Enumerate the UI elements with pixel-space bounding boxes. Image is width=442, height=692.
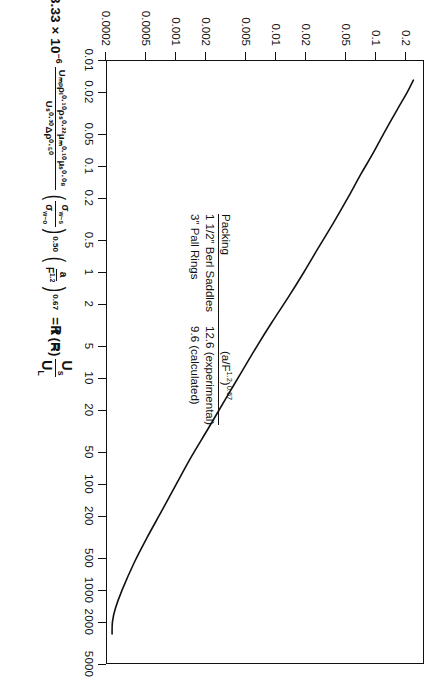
sigma-ratio-exponent: 0.50 <box>51 236 60 252</box>
legend-header-value: (a/F1.2)0.67 <box>219 326 234 425</box>
y-tick-mark <box>175 52 176 60</box>
x-tick-label: 500 <box>83 548 95 568</box>
y-tick-label: 0.1 <box>370 30 382 46</box>
sigma-ratio-numerator: σw−s <box>55 201 70 227</box>
y-axis-title-aF-group: ( a F1.2 ) 0.67 <box>43 255 68 310</box>
y-tick-mark <box>145 52 146 60</box>
legend-table: Packing (a/F1.2)0.67 1 1/2″ Berl Saddles… <box>189 214 234 425</box>
x-tick-label: 10 <box>83 371 95 384</box>
y-axis-title-main-denominator: Uₛ⁰·³⁰Δρ⁰·⁵⁰ <box>44 98 55 159</box>
x-tick-label: 2 <box>83 301 95 308</box>
legend-block: Packing (a/F1.2)0.67 1 1/2″ Berl Saddles… <box>189 214 234 425</box>
x-tick-mark <box>98 410 106 411</box>
legend-header-packing: Packing <box>219 214 234 326</box>
y-tick-label: 0.05 <box>340 24 352 46</box>
x-tick-label: 200 <box>83 506 95 526</box>
x-tick-label: 5 <box>83 343 95 350</box>
x-tick-label: 0.2 <box>83 190 95 207</box>
x-tick-label: 0.02 <box>83 80 95 103</box>
x-tick-label: 5000 <box>83 651 95 677</box>
x-tick-label: 1000 <box>83 577 95 603</box>
x-tick-mark <box>98 378 106 379</box>
x-tick-label: 0.01 <box>83 48 95 71</box>
data-curve <box>106 60 424 664</box>
y-tick-mark <box>105 52 106 60</box>
y-tick-mark <box>245 52 246 60</box>
x-tick-label: 1 <box>83 269 95 276</box>
y-axis-title: 3.33 × 10−6 Uₘₚρₗ⁰·¹⁰ρₛ⁰·²²μₘ⁰·¹⁰μₛ⁰·⁰⁸ … <box>41 0 70 692</box>
sigma-ratio-fraction: σw−s σw−o <box>41 201 70 227</box>
x-tick-mark <box>98 134 106 135</box>
y-tick-label: 0.0002 <box>100 11 112 46</box>
y-tick-mark <box>375 52 376 60</box>
y-tick-label: 0.02 <box>300 24 312 46</box>
x-tick-mark <box>98 622 106 623</box>
aF-ratio-denominator: F1.2 <box>43 264 56 286</box>
legend-row-packing: 1 1/2″ Berl Saddles <box>204 214 219 326</box>
sigma-ratio-denominator: σw−o <box>41 201 55 227</box>
y-tick-mark <box>275 52 276 60</box>
rotated-figure-container: 0.010.020.050.10.20.51251020501002005001… <box>0 0 442 692</box>
x-tick-mark <box>98 198 106 199</box>
y-axis-title-tail: = f (R) <box>48 313 63 356</box>
y-tick-label: 0.0005 <box>140 11 152 46</box>
x-tick-mark <box>98 60 106 61</box>
aF-ratio-numerator: a <box>56 269 69 281</box>
y-tick-mark <box>205 52 206 60</box>
x-tick-label: 20 <box>83 403 95 416</box>
y-axis-title-lead: 3.33 × 10−6 <box>47 0 64 64</box>
x-tick-mark <box>98 166 106 167</box>
x-tick-label: 100 <box>83 474 95 494</box>
legend-row-value: 9.6 (calculated) <box>189 326 204 425</box>
right-paren-icon-2: ) <box>45 287 66 292</box>
y-tick-label: 0.2 <box>400 30 412 46</box>
aF-ratio-exponent: 0.67 <box>51 294 60 310</box>
x-tick-label: 0.05 <box>83 122 95 145</box>
x-tick-mark <box>98 346 106 347</box>
y-axis-title-main-numerator: Uₘₚρₗ⁰·¹⁰ρₛ⁰·²²μₘ⁰·¹⁰μₛ⁰·⁰⁸ <box>55 67 67 190</box>
legend-row: 1 1/2″ Berl Saddles 12.6 (experimental) <box>204 214 219 425</box>
y-tick-label: 0.002 <box>200 17 212 46</box>
x-tick-mark <box>98 516 106 517</box>
legend-header-row: Packing (a/F1.2)0.67 <box>219 214 234 425</box>
x-tick-mark <box>98 558 106 559</box>
x-tick-mark <box>98 272 106 273</box>
x-tick-label: 50 <box>83 445 95 458</box>
left-paren-icon-2: ( <box>45 257 66 262</box>
y-axis-title-main-fraction: Uₘₚρₗ⁰·¹⁰ρₛ⁰·²²μₘ⁰·¹⁰μₛ⁰·⁰⁸ Uₛ⁰·³⁰Δρ⁰·⁵⁰ <box>44 67 67 190</box>
y-tick-mark <box>305 52 306 60</box>
y-axis-title-sigma-group: ( σw−s σw−o ) 0.50 <box>41 193 70 253</box>
y-tick-label: 0.01 <box>270 24 282 46</box>
legend-row-value: 12.6 (experimental) <box>204 326 219 425</box>
legend-row-packing: 3″ Pall Rings <box>189 214 204 326</box>
x-tick-mark <box>98 452 106 453</box>
x-tick-label: 0.1 <box>83 158 95 175</box>
legend-row: 3″ Pall Rings 9.6 (calculated) <box>189 214 204 425</box>
y-tick-mark <box>405 52 406 60</box>
x-tick-mark <box>98 304 106 305</box>
y-tick-label: 0.001 <box>170 17 182 46</box>
x-tick-mark <box>98 590 106 591</box>
right-paren-icon: ) <box>45 229 66 234</box>
x-tick-label: 0.5 <box>83 232 95 249</box>
figure: 0.010.020.050.10.20.51251020501002005001… <box>0 0 442 692</box>
y-tick-mark <box>345 52 346 60</box>
aF-ratio-fraction: a F1.2 <box>43 264 68 286</box>
x-tick-mark <box>98 92 106 93</box>
left-paren-icon: ( <box>45 194 66 199</box>
x-tick-mark <box>98 240 106 241</box>
y-tick-label: 0.005 <box>240 17 252 46</box>
x-tick-mark <box>98 664 106 665</box>
x-tick-label: 2000 <box>83 609 95 635</box>
x-tick-mark <box>98 484 106 485</box>
